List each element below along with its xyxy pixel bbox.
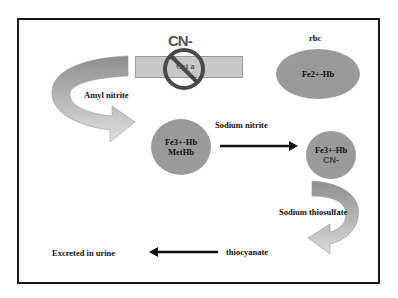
- sodium-thiosulfate-label: Sodium thiosulfate: [279, 207, 347, 217]
- sodium-nitrite-label: Sodium nitrite: [215, 120, 268, 130]
- rbc-label: rbc: [309, 33, 321, 43]
- fe3-hb-methb-node: Fe3+-Hb MetHb: [151, 119, 211, 175]
- fe3-hb-label: Fe3+-Hb: [165, 137, 197, 147]
- thiocyanate-label: thiocyanate: [226, 247, 268, 257]
- bound-cyanide-label: CN-: [323, 155, 339, 165]
- cyanide-ion-label: CN-: [168, 32, 192, 49]
- amyl-nitrite-label: Amyl nitrite: [84, 90, 129, 100]
- methb-label: MetHb: [168, 147, 194, 157]
- excreted-in-urine-label: Excreted in urine: [52, 248, 115, 258]
- fe2-hb-label: Fe2+-Hb: [302, 69, 334, 79]
- fe3-hb-cyanide-node: Fe3+-Hb CN-: [306, 131, 356, 179]
- fe2-hb-node: Fe2+-Hb: [276, 49, 360, 99]
- fe3-hb-cn-label: Fe3+-Hb: [315, 145, 347, 155]
